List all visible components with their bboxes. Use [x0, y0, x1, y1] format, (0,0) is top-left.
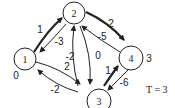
weight-1-3: 2 — [64, 61, 70, 72]
node-1: 1 0 — [13, 48, 36, 81]
node-3-label: 3 — [97, 96, 102, 107]
t-label: T = 3 — [146, 84, 168, 95]
weight-3-1: -2 — [51, 84, 60, 95]
weight-4-2: -5 — [98, 31, 107, 42]
weight-1-2: 1 — [37, 24, 43, 35]
edge-1-3 — [36, 62, 80, 84]
edges — [34, 12, 128, 92]
weight-4-3: -6 — [120, 77, 129, 88]
node-2-label: 2 — [72, 8, 77, 19]
weight-2-1: -3 — [55, 36, 64, 47]
node-4-label: 4 — [129, 53, 134, 64]
node-2: 2 — [63, 2, 85, 24]
node-1-label: 1 — [23, 54, 28, 65]
graph-diagram: 1 0 2 3 4 3 1 -3 2 -5 -2 0 2 -2 1 -6 T =… — [0, 0, 175, 108]
node-4-value: 3 — [146, 53, 152, 64]
weight-3-4: 1 — [105, 65, 111, 76]
weight-2-4: 2 — [108, 18, 114, 29]
node-4: 4 3 — [119, 46, 152, 70]
weight-2-3: 0 — [95, 50, 101, 61]
node-3: 3 — [87, 89, 111, 108]
edge-2-3 — [80, 26, 90, 84]
node-1-value: 0 — [13, 70, 19, 81]
